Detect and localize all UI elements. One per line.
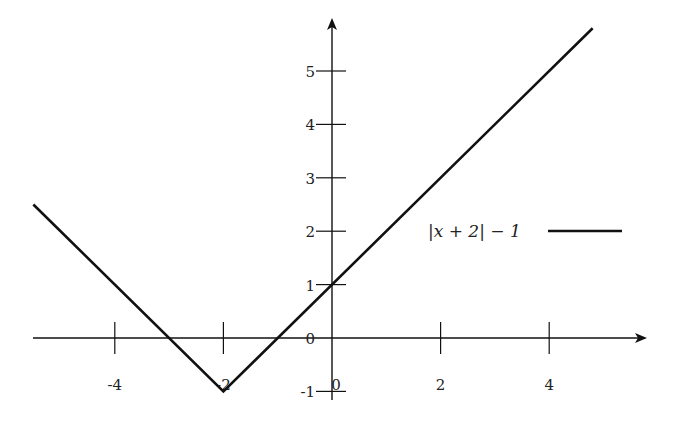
legend: |x + 2| − 1 xyxy=(428,221,622,241)
legend-label: |x + 2| − 1 xyxy=(428,221,521,241)
x-ticks: -4-2024 xyxy=(107,322,553,394)
y-tick-label: 0 xyxy=(305,330,315,348)
x-tick-label: 2 xyxy=(436,376,446,394)
x-tick-label: -4 xyxy=(107,376,122,394)
y-tick-label: -1 xyxy=(300,383,315,401)
function-plot: -4-2024 -1012345 |x + 2| − 1 xyxy=(0,0,678,422)
y-tick-label: 2 xyxy=(305,223,315,241)
y-tick-label: 5 xyxy=(305,63,315,81)
y-tick-label: 3 xyxy=(305,170,315,188)
y-tick-label: 1 xyxy=(305,277,315,295)
y-ticks: -1012345 xyxy=(300,63,346,401)
x-tick-label: 4 xyxy=(544,376,554,394)
y-tick-label: 4 xyxy=(305,116,315,134)
